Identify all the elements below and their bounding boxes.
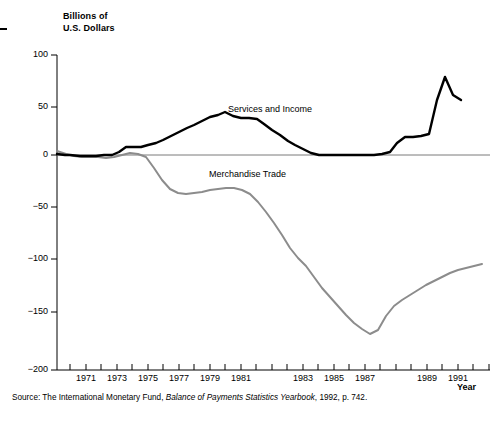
y-tick-label-0: 0	[14, 149, 48, 159]
plot-area	[0, 0, 501, 421]
x-axis-title: Year	[457, 382, 476, 392]
source-note: Source: The International Monetary Fund,…	[12, 393, 367, 402]
series-label-merchandise-trade: Merchandise Trade	[209, 169, 286, 179]
x-tick-label-1987: 1987	[345, 373, 385, 383]
y-tick-label-neg100: −100	[14, 253, 48, 263]
y-tick-label-100: 100	[14, 49, 48, 59]
chart-figure: Billions of U.S. Dollars	[0, 0, 501, 421]
y-tick-label-neg150: −150	[14, 306, 48, 316]
y-tick-label-50: 50	[14, 101, 48, 111]
series-label-services-and-income: Services and Income	[228, 104, 312, 114]
source-suffix: , 1992, p. 742.	[315, 393, 367, 402]
y-tick-label-neg200: −200	[14, 364, 48, 374]
series-line-services-and-income	[57, 77, 461, 156]
x-axis-ticks	[70, 364, 489, 370]
source-prefix: Source: The International Monetary Fund,	[12, 393, 166, 402]
x-tick-label-1981: 1981	[221, 373, 261, 383]
source-italic-title: Balance of Payments Statistics Yearbook	[166, 393, 315, 402]
y-tick-label-neg50: −50	[14, 201, 48, 211]
